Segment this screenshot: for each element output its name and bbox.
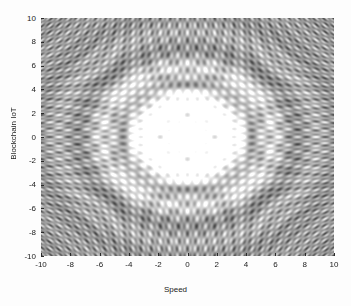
x-tick-label: 4 [234, 260, 258, 269]
x-tick-label: 8 [293, 260, 317, 269]
x-axis-title: Speed [0, 285, 351, 294]
y-tick-mark [41, 137, 44, 138]
y-tick-label: 8 [14, 37, 36, 46]
y-tick-mark [41, 113, 44, 114]
x-tick-mark [158, 253, 159, 256]
x-tick-mark [188, 253, 189, 256]
y-tick-label: 10 [14, 14, 36, 23]
x-tick-label: -6 [88, 260, 112, 269]
y-tick-label: -8 [14, 228, 36, 237]
heatmap-image [41, 18, 334, 256]
x-tick-label: -2 [146, 260, 170, 269]
x-tick-label: 10 [322, 260, 346, 269]
y-tick-mark [41, 89, 44, 90]
x-tick-mark [305, 253, 306, 256]
x-tick-mark [41, 253, 42, 256]
figure-canvas: 1086420-2-4-6-8-10 -10-8-6-4-20246810 Sp… [0, 0, 351, 306]
y-axis-title: Blockchain IoT [9, 89, 18, 179]
y-tick-label: 6 [14, 61, 36, 70]
x-tick-mark [217, 253, 218, 256]
x-tick-label: -4 [117, 260, 141, 269]
y-tick-label: -6 [14, 204, 36, 213]
x-tick-mark [100, 253, 101, 256]
y-tick-mark [41, 208, 44, 209]
x-tick-mark [70, 253, 71, 256]
heatmap-axes[interactable] [41, 18, 334, 256]
x-tick-label: 0 [176, 260, 200, 269]
x-tick-label: -8 [58, 260, 82, 269]
x-tick-mark [246, 253, 247, 256]
y-tick-label: -4 [14, 180, 36, 189]
y-tick-mark [41, 18, 44, 19]
y-tick-mark [41, 161, 44, 162]
y-tick-mark [41, 42, 44, 43]
x-tick-mark [275, 253, 276, 256]
y-tick-mark [41, 66, 44, 67]
x-tick-mark [334, 253, 335, 256]
y-tick-mark [41, 256, 44, 257]
x-tick-mark [129, 253, 130, 256]
y-tick-mark [41, 232, 44, 233]
y-tick-mark [41, 185, 44, 186]
x-tick-label: 6 [263, 260, 287, 269]
x-tick-label: 2 [205, 260, 229, 269]
x-tick-label: -10 [29, 260, 53, 269]
